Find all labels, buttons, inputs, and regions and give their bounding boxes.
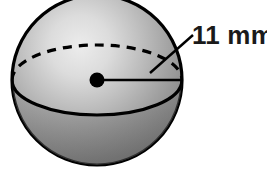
dimension-label: 11 mm [192, 20, 267, 50]
figure-canvas: 11 mm [0, 0, 267, 181]
sphere-diagram: 11 mm [0, 0, 267, 181]
center-dot [90, 73, 105, 88]
